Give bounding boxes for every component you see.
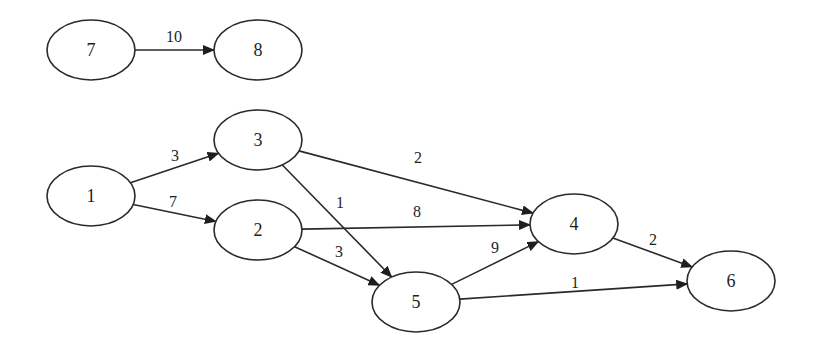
node-6: 6 xyxy=(687,251,775,311)
node-label: 6 xyxy=(727,271,736,291)
graph-canvas: 78312456 10372183921 xyxy=(0,0,816,350)
node-label: 5 xyxy=(412,292,421,312)
edge-weight-label: 8 xyxy=(413,203,421,220)
node-label: 7 xyxy=(87,40,96,60)
edge-weight-label: 9 xyxy=(491,239,499,256)
edge-weight-label: 3 xyxy=(335,243,343,260)
edge-weight-label: 7 xyxy=(169,193,177,210)
node-label: 4 xyxy=(570,214,579,234)
edge-weight-label: 3 xyxy=(171,147,179,164)
edge-weight-label: 1 xyxy=(571,274,579,291)
node-5: 5 xyxy=(372,272,460,332)
node-8: 8 xyxy=(214,20,302,80)
node-1: 1 xyxy=(47,166,135,226)
node-2: 2 xyxy=(214,200,302,260)
node-label: 1 xyxy=(87,186,96,206)
node-4: 4 xyxy=(530,194,618,254)
node-7: 7 xyxy=(47,20,135,80)
node-3: 3 xyxy=(214,110,302,170)
node-label: 8 xyxy=(254,40,263,60)
edge-weight-label: 2 xyxy=(649,231,657,248)
edge-weight-label: 1 xyxy=(336,194,344,211)
node-label: 2 xyxy=(254,220,263,240)
edge-weight-label: 2 xyxy=(414,149,422,166)
edge-2-to-4 xyxy=(302,225,530,229)
edge-weight-label: 10 xyxy=(166,28,182,45)
node-label: 3 xyxy=(254,130,263,150)
edges-layer xyxy=(130,50,692,299)
